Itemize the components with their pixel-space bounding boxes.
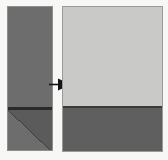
source-panel-lower-region	[8, 110, 52, 151]
result-panel-upper-region	[63, 7, 162, 106]
result-panel[interactable]	[62, 6, 163, 152]
diagram-canvas	[0, 0, 168, 160]
result-panel-lower-region	[63, 108, 162, 152]
source-panel[interactable]	[7, 6, 53, 151]
diagonal-split-shape	[8, 110, 52, 151]
source-panel-upper-region	[8, 7, 52, 107]
